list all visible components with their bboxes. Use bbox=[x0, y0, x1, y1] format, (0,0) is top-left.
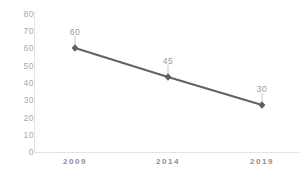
x-axis-tick-label: 2014 bbox=[156, 158, 180, 166]
data-point-label: 60 bbox=[70, 28, 80, 37]
data-point-marker bbox=[165, 73, 172, 81]
x-axis-tick-label: 2009 bbox=[63, 158, 87, 166]
x-axis-tick-label: 2019 bbox=[250, 158, 274, 166]
data-point-label: 45 bbox=[163, 57, 173, 66]
data-point-marker bbox=[259, 101, 266, 109]
plot-area bbox=[0, 0, 301, 179]
line-chart: 80 70 60 50 40 30 20 10 0 60 45 30 2009 … bbox=[0, 0, 301, 179]
data-point-marker bbox=[72, 44, 79, 52]
data-point-label: 30 bbox=[257, 85, 267, 94]
